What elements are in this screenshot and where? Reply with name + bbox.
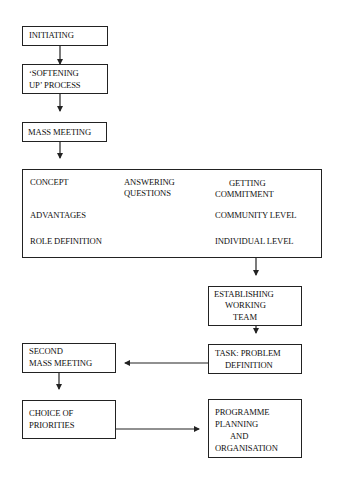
node-establishing-line2: WORKING — [225, 300, 266, 311]
agenda-advantages: ADVANTAGES — [30, 210, 86, 221]
node-mass-meeting-agenda: CONCEPT ADVANTAGES ROLE DEFINITION ANSWE… — [22, 169, 322, 258]
node-initiating-label: INITIATING — [29, 30, 74, 41]
node-programme-line1: PROGRAMME — [215, 407, 270, 418]
agenda-getting-line2: COMMITMENT — [215, 189, 274, 200]
agenda-answering-line2: QUESTIONS — [124, 188, 171, 199]
node-programme-line3: AND — [230, 431, 248, 442]
agenda-answering-line1: ANSWERING — [124, 177, 175, 188]
node-establishing-line1: ESTABLISHING — [214, 289, 274, 300]
node-choice-line1: CHOICE OF — [29, 408, 73, 419]
node-softening-line1: ‘SOFTENING — [29, 68, 79, 79]
node-establishing-working-team: ESTABLISHING WORKING TEAM — [208, 286, 302, 326]
node-choice-of-priorities: CHOICE OF PRIORITIES — [22, 400, 116, 439]
node-initiating: INITIATING — [22, 26, 108, 46]
node-softening-up: ‘SOFTENING UP’ PROCESS — [22, 64, 108, 94]
agenda-role-definition: ROLE DEFINITION — [30, 236, 102, 247]
node-mass-meeting-label: MASS MEETING — [28, 127, 91, 138]
node-softening-line2: UP’ PROCESS — [29, 80, 81, 91]
node-programme-line4: ORGANISATION — [215, 443, 278, 454]
node-mass-meeting: MASS MEETING — [22, 122, 107, 142]
node-second-line1: SECOND — [29, 346, 63, 357]
node-programme-line2: PLANNING — [215, 419, 258, 430]
agenda-concept: CONCEPT — [30, 177, 68, 188]
agenda-getting-line1: GETTING — [229, 178, 266, 189]
node-task-line2: DEFINITION — [225, 360, 273, 371]
node-task-line1: TASK: PROBLEM — [215, 348, 281, 359]
agenda-community-level: COMMUNITY LEVEL — [215, 210, 296, 221]
node-second-line2: MASS MEETING — [29, 358, 92, 369]
node-second-mass-meeting: SECOND MASS MEETING — [22, 343, 116, 373]
node-choice-line2: PRIORITIES — [29, 420, 74, 431]
agenda-individual-level: INDIVIDUAL LEVEL — [215, 236, 294, 247]
node-establishing-line3: TEAM — [233, 312, 257, 323]
node-task-problem-definition: TASK: PROBLEM DEFINITION — [208, 344, 302, 374]
node-programme-planning: PROGRAMME PLANNING AND ORGANISATION — [208, 399, 302, 458]
